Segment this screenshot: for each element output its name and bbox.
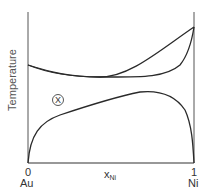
point-x-label: X (55, 95, 61, 106)
x-axis-label-subscript: Ni (110, 174, 117, 181)
liquidus-curve (28, 27, 194, 77)
phase-diagram (0, 0, 210, 195)
x-axis-label: xNi (104, 169, 116, 183)
x-tick-0-element: Au (20, 178, 33, 189)
solidus-curve (28, 27, 194, 77)
x-tick-1-element: Ni (188, 178, 198, 189)
y-axis-label: Temperature (6, 49, 18, 111)
